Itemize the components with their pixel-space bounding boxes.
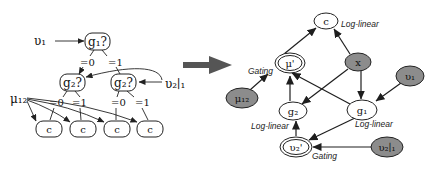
tree-leaf-3: c — [104, 121, 130, 137]
to-leaf-4-line — [142, 108, 148, 120]
node-c: c — [314, 13, 338, 29]
l2-right-branch-1-line — [127, 91, 134, 97]
root-branch-1-label: =1 — [108, 57, 123, 68]
node-v1: υ₁ — [396, 66, 424, 86]
diagram-canvas: υ₁ g₁? =0 =1 g₂? g₂? υ₂∣₁ =0 — [0, 0, 436, 177]
right-arrow-icon — [183, 56, 232, 74]
tree-input-v21: υ₂∣₁ — [165, 77, 185, 91]
edge-g1-to-v2-prime — [309, 118, 355, 140]
root-branch-1-line — [102, 50, 107, 56]
edge-g1-to-mu-prime — [292, 73, 350, 104]
tree-level2-left-node: g₂? — [60, 74, 85, 91]
svg-text:υ₁: υ₁ — [405, 71, 415, 82]
l2-right-branch-1-label: =1 — [135, 97, 150, 108]
tree-input-mu12: μ₁₂ — [10, 92, 28, 106]
root-branch-0-label: =0 — [80, 57, 95, 68]
svg-text:g₂?: g₂? — [63, 76, 82, 90]
tree-leaf-1: c — [36, 121, 62, 137]
svg-text:g₂?: g₂? — [114, 76, 133, 90]
root-to-left-arrow — [79, 67, 83, 74]
annotation-g1: Log-linear — [355, 119, 394, 129]
edge-x-to-c — [334, 29, 350, 54]
node-g1: g₁ — [347, 100, 377, 120]
edge-mu12-to-mu-prime — [250, 74, 268, 90]
graphical-model: c Log-linear μ' Gating x υ₁ μ₁₂ g₂ — [226, 13, 424, 161]
svg-text:g₂: g₂ — [288, 106, 298, 117]
annotation-mu-prime: Gating — [248, 66, 273, 76]
node-mu-prime: μ' — [275, 53, 305, 73]
tree-leaf-2: c — [70, 121, 96, 137]
svg-text:c: c — [323, 16, 329, 27]
node-mu12: μ₁₂ — [226, 88, 258, 108]
svg-text:c: c — [80, 124, 86, 135]
node-g2: g₂ — [279, 102, 307, 120]
svg-text:μ': μ' — [285, 58, 294, 69]
svg-text:μ₁₂: μ₁₂ — [235, 93, 250, 104]
annotation-v2-prime: Gating — [312, 151, 337, 161]
to-leaf-2-line — [80, 108, 81, 120]
svg-text:x: x — [355, 57, 361, 68]
tree-input-v1: υ₁ — [34, 34, 46, 48]
svg-text:υ₂∣₁: υ₂∣₁ — [378, 142, 395, 153]
svg-text:c: c — [114, 124, 120, 135]
svg-text:c: c — [46, 124, 52, 135]
root-branch-0-line — [90, 50, 94, 56]
node-v2-prime: υ₂' — [280, 137, 312, 157]
annotation-c: Log-linear — [341, 19, 380, 29]
annotation-g2: Log-linear — [251, 121, 290, 131]
node-x: x — [345, 53, 371, 71]
mu12-to-leaf-1 — [27, 101, 36, 121]
l2-right-branch-0-label: =0 — [111, 97, 126, 108]
svg-text:υ₂': υ₂' — [290, 142, 303, 153]
node-v21: υ₂∣₁ — [371, 137, 403, 157]
edge-mu-prime-to-c — [284, 28, 316, 54]
tree-level2-right-node: g₂? — [111, 74, 136, 91]
decision-tree: υ₁ g₁? =0 =1 g₂? g₂? υ₂∣₁ =0 — [10, 33, 185, 137]
tree-leaf-4: c — [137, 121, 163, 137]
tree-root-node: g₁? — [85, 33, 110, 50]
svg-text:c: c — [147, 124, 153, 135]
edge-v1-to-g1 — [376, 83, 401, 101]
svg-text:g₁: g₁ — [357, 105, 367, 116]
svg-text:g₁?: g₁? — [88, 35, 107, 49]
